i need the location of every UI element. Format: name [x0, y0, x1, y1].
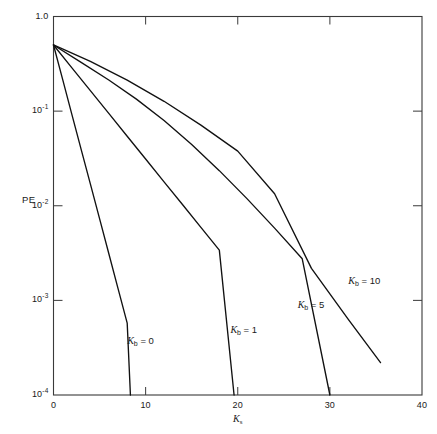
x-tick-label: 10 — [140, 400, 150, 410]
y-tick-label: 10-4 — [32, 389, 49, 399]
x-tick-label: 40 — [417, 400, 427, 410]
data-curves — [54, 45, 381, 395]
curve-label-symbol: K — [348, 275, 355, 286]
chart-figure: 1.010-110-210-310-4 010203040 PE Ks Kb =… — [0, 0, 437, 434]
curve-label-3: Kb = 10 — [348, 275, 380, 286]
y-tick-label: 10-1 — [32, 105, 49, 115]
x-tick-label: 20 — [233, 400, 243, 410]
curve-label-value: = 1 — [244, 324, 257, 335]
y-tick-exponent: -1 — [42, 103, 48, 110]
x-axis-label-base: K — [233, 413, 240, 424]
curve-label-0: Kb = 0 — [127, 335, 154, 346]
y-tick-exponent: -2 — [42, 198, 48, 205]
curve-label-subscript: b — [134, 340, 138, 347]
curve-label-value: = 0 — [140, 335, 153, 346]
curve-label-subscript: b — [304, 303, 308, 310]
y-tick-label: 10-3 — [32, 294, 49, 304]
curve-label-subscript: b — [355, 280, 359, 287]
curve-label-value: = 10 — [362, 275, 381, 286]
curve-label-subscript: b — [237, 329, 241, 336]
y-tick-exponent: -3 — [42, 292, 48, 299]
y-tick-label: 1.0 — [35, 11, 48, 21]
curve-label-symbol: K — [127, 335, 134, 346]
y-tick-mantissa: 10 — [32, 105, 42, 115]
y-tick-mantissa: 10 — [32, 389, 42, 399]
plot-border — [54, 17, 423, 396]
curve-3 — [54, 45, 381, 363]
x-tick-label: 30 — [325, 400, 335, 410]
curve-2 — [54, 45, 330, 395]
plot-frame — [54, 17, 423, 396]
y-axis-label: PE — [22, 194, 35, 205]
y-tick-mantissa: 10 — [32, 294, 42, 304]
curve-label-1: Kb = 1 — [230, 324, 257, 335]
curve-label-2: Kb = 5 — [298, 299, 325, 310]
plot-canvas — [0, 0, 437, 434]
y-tick-exponent: -4 — [42, 387, 48, 394]
curve-label-value: = 5 — [311, 299, 324, 310]
curve-0 — [54, 45, 131, 395]
axis-ticks — [54, 17, 423, 396]
x-axis-label: Ks — [233, 413, 242, 424]
x-tick-label: 0 — [51, 400, 56, 410]
x-axis-label-subscript: s — [240, 418, 243, 426]
